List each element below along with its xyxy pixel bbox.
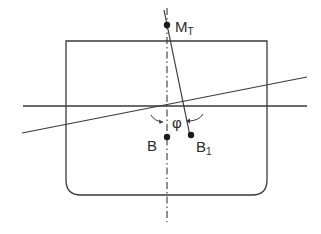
metacentre-label: MT (175, 19, 194, 37)
shifted-buoyancy-label: B1 (196, 139, 212, 157)
metacentre-label-sub: T (188, 26, 194, 37)
stability-diagram (0, 0, 321, 234)
metacentre-point (164, 22, 170, 28)
centre-of-buoyancy-point (164, 134, 170, 140)
heel-angle-label: φ (172, 115, 182, 130)
metacentre-label-main: M (175, 18, 188, 35)
centre-of-buoyancy-label: B (147, 138, 157, 153)
arrowhead-left-icon (159, 120, 163, 125)
shifted-buoyancy-label-sub: 1 (206, 146, 212, 157)
shifted-buoyancy-label-main: B (196, 138, 206, 155)
heel-angle-arrow-right-icon (188, 114, 203, 121)
shifted-buoyancy-point (188, 132, 194, 138)
inclined-waterline (22, 77, 307, 133)
